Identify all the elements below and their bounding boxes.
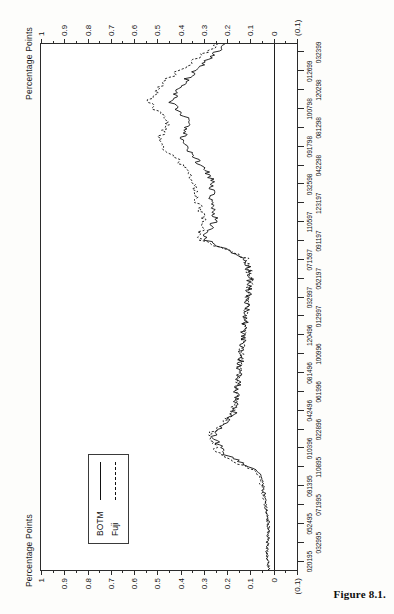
- y-tick: [204, 570, 205, 575]
- y-minor-tick: [239, 41, 240, 44]
- x-tick: [298, 108, 304, 109]
- series-botm: [169, 44, 270, 570]
- legend-label-fuji: Fuji: [110, 506, 120, 536]
- plot-inner: [41, 44, 297, 570]
- y-tick: [64, 39, 65, 44]
- y-minor-tick: [99, 41, 100, 44]
- y-minor-tick: [99, 570, 100, 573]
- x-tick-label: 032997: [306, 287, 313, 308]
- y-minor-tick: [216, 41, 217, 44]
- y-minor-tick: [146, 570, 147, 573]
- x-tick: [298, 485, 304, 486]
- chart-upright-canvas: Percentage Points Percentage Points BOTM…: [22, 27, 372, 587]
- figure-caption: Figure 8.1.: [334, 588, 386, 600]
- x-tick-label: 110895: [315, 457, 322, 478]
- y-minor-tick: [53, 570, 54, 573]
- y-tick-label: 0.9: [60, 25, 69, 36]
- y-tick-label: 0.7: [106, 25, 115, 36]
- y-tick-label: 0.3: [199, 578, 208, 589]
- x-tick: [298, 183, 304, 184]
- y-tick-label: (0.1): [293, 578, 302, 594]
- plot-area: BOTM Fuji 110.90.90.80.80.70.70.60.60.50…: [40, 43, 298, 571]
- y-tick: [204, 39, 205, 44]
- x-tick: [298, 410, 304, 411]
- x-tick: [298, 297, 304, 298]
- x-tick-label: 091395: [306, 475, 313, 496]
- x-tick-label: 010396: [306, 438, 313, 459]
- legend-entry-fuji: Fuji: [108, 462, 123, 536]
- x-tick: [298, 372, 304, 373]
- y-minor-tick: [146, 41, 147, 44]
- y-tick-label: 0.4: [176, 578, 185, 589]
- y-tick: [134, 570, 135, 575]
- x-tick: [298, 89, 304, 90]
- series-lines: [41, 44, 297, 570]
- y-minor-tick: [122, 41, 123, 44]
- y-minor-tick: [169, 41, 170, 44]
- y-tick-label: 0.4: [176, 25, 185, 36]
- y-tick-label: 0.1: [246, 578, 255, 589]
- x-tick: [298, 51, 304, 52]
- y-tick-label: 0.9: [60, 578, 69, 589]
- x-tick: [298, 542, 304, 543]
- x-tick-label: 081298: [315, 117, 322, 138]
- y-tick-label: 0.5: [153, 578, 162, 589]
- x-tick: [298, 334, 304, 335]
- x-tick: [298, 70, 304, 71]
- x-tick: [298, 127, 304, 128]
- y-minor-tick: [53, 41, 54, 44]
- x-tick-label: 091798: [306, 136, 313, 157]
- legend-swatch-solid: [100, 462, 101, 500]
- x-tick: [298, 391, 304, 392]
- x-tick: [298, 447, 304, 448]
- y-tick-label: 0.1: [246, 25, 255, 36]
- x-tick-label: 032598: [306, 174, 313, 195]
- y-minor-tick: [262, 41, 263, 44]
- y-tick: [250, 570, 251, 575]
- y-tick-label: 0.3: [199, 25, 208, 36]
- x-tick-label: 042298: [315, 155, 322, 176]
- x-tick-label: 020195: [306, 551, 313, 572]
- x-tick-label: 042496: [306, 400, 313, 421]
- rotated-figure-wrapper: Percentage Points Percentage Points BOTM…: [0, 0, 394, 614]
- y-tick: [274, 39, 275, 44]
- y-tick-label: 0.8: [83, 25, 92, 36]
- y-tick-label: 1: [37, 578, 46, 582]
- y-tick: [227, 39, 228, 44]
- x-tick-label: 100798: [306, 98, 313, 119]
- x-tick-label: 091197: [315, 231, 322, 252]
- y-tick-label: 0.2: [223, 578, 232, 589]
- y-tick: [157, 570, 158, 575]
- x-tick: [298, 466, 304, 467]
- x-tick: [298, 165, 304, 166]
- x-tick-label: 100996: [315, 343, 322, 364]
- x-tick-label: 081496: [306, 362, 313, 383]
- y-tick: [157, 39, 158, 44]
- y-tick: [111, 570, 112, 575]
- series-fuji: [147, 44, 270, 570]
- x-tick-label: 022896: [315, 419, 322, 440]
- x-tick: [298, 429, 304, 430]
- legend-swatch-dashed: [115, 462, 116, 500]
- x-tick-label: 071995: [315, 494, 322, 515]
- y-tick: [111, 39, 112, 44]
- y-tick: [134, 39, 135, 44]
- x-tick: [298, 146, 304, 147]
- x-tick-label: 052197: [315, 268, 322, 289]
- y-tick-label: 0.8: [83, 578, 92, 589]
- x-tick: [298, 353, 304, 354]
- figure-page: Percentage Points Percentage Points BOTM…: [0, 0, 394, 614]
- x-tick-label: 123197: [315, 193, 322, 214]
- y-minor-tick: [285, 41, 286, 44]
- x-tick-label: 032399: [315, 42, 322, 63]
- y-tick: [250, 39, 251, 44]
- x-tick: [298, 202, 304, 203]
- legend-entry-botm: BOTM: [93, 462, 108, 536]
- x-tick: [298, 523, 304, 524]
- y-tick: [88, 570, 89, 575]
- y-minor-tick: [76, 41, 77, 44]
- y-minor-tick: [169, 570, 170, 573]
- y-tick-label: 1: [37, 32, 46, 36]
- x-tick: [298, 315, 304, 316]
- y-minor-tick: [76, 570, 77, 573]
